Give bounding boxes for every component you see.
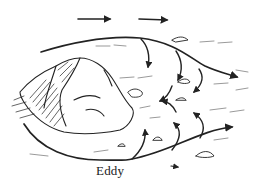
- downward-eddy-arrows: [141, 39, 202, 101]
- main-flow-arrow: [41, 38, 237, 77]
- eddy-label: Eddy: [96, 163, 124, 179]
- eddy-diagram: Eddy: [0, 0, 266, 188]
- upward-eddy-arrows: [132, 101, 203, 159]
- eddy-illustration: [0, 0, 266, 188]
- rock: [12, 58, 133, 134]
- current-arrows-top: [78, 19, 167, 20]
- small-marker-arrow: [171, 166, 178, 167]
- water-ripples: [30, 41, 248, 156]
